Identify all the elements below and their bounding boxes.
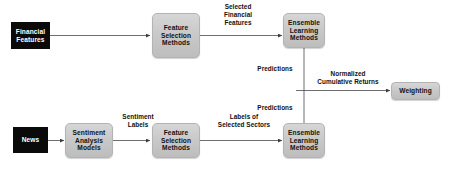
- edge-label-predictions-bottom-line-1: Predictions: [249, 104, 301, 112]
- node-news-label: News: [22, 136, 40, 144]
- node-feature-selection-methods-top[interactable]: Feature Selection Methods: [152, 13, 200, 58]
- node-feature-selection-top-line-3: Methods: [162, 39, 190, 47]
- edge-label-predictions-top-line-1: Predictions: [249, 65, 301, 73]
- node-ensemble-learning-methods-top[interactable]: Ensemble Learning Methods: [283, 13, 325, 48]
- edge-label-labels-of-selected-sectors-line-1: Labels of: [206, 113, 282, 121]
- node-weighting-label: Weighting: [399, 87, 432, 95]
- node-sentiment-analysis-line-2: Analysis: [75, 137, 103, 145]
- node-feature-selection-top-line-1: Feature: [164, 24, 189, 32]
- node-feature-selection-top-line-2: Selection: [161, 32, 191, 40]
- edge-label-labels-of-selected-sectors-line-2: Selected Sectors: [206, 121, 282, 129]
- edge-label-selected-financial-features: Selected Financial Features: [208, 3, 268, 26]
- node-news[interactable]: News: [13, 127, 48, 153]
- node-financial-features-line-1: Financial: [16, 28, 45, 36]
- edge-label-selected-financial-features-line-2: Financial: [208, 11, 268, 19]
- edge-label-normalized-cumulative-returns: Normalized Cumulative Returns: [310, 70, 386, 86]
- node-sentiment-analysis-line-1: Sentiment: [73, 129, 106, 137]
- node-ensemble-top-line-2: Learning: [290, 27, 319, 35]
- edge-label-predictions-top: Predictions: [249, 65, 301, 73]
- node-feature-selection-methods-bottom[interactable]: Feature Selection Methods: [152, 123, 200, 158]
- node-ensemble-bottom-line-1: Ensemble: [288, 129, 320, 137]
- node-ensemble-top-line-3: Methods: [290, 34, 318, 42]
- edge-label-normalized-cumulative-returns-line-1: Normalized: [310, 70, 386, 78]
- node-ensemble-top-line-1: Ensemble: [288, 19, 320, 27]
- node-financial-features[interactable]: Financial Features: [11, 22, 50, 49]
- node-weighting[interactable]: Weighting: [391, 82, 440, 100]
- edge-label-selected-financial-features-line-1: Selected: [208, 3, 268, 11]
- node-feature-selection-bottom-line-3: Methods: [162, 144, 190, 152]
- node-sentiment-analysis-models[interactable]: Sentiment Analysis Models: [65, 123, 113, 158]
- node-feature-selection-bottom-line-2: Selection: [161, 137, 191, 145]
- node-ensemble-learning-methods-bottom[interactable]: Ensemble Learning Methods: [283, 123, 325, 158]
- edge-label-normalized-cumulative-returns-line-2: Cumulative Returns: [310, 78, 386, 86]
- edge-label-labels-of-selected-sectors: Labels of Selected Sectors: [206, 113, 282, 129]
- edge-label-predictions-bottom: Predictions: [249, 104, 301, 112]
- node-financial-features-line-2: Features: [16, 36, 44, 44]
- edge-label-sentiment-labels-line-1: Sentiment: [114, 113, 162, 121]
- node-ensemble-bottom-line-3: Methods: [290, 144, 318, 152]
- edge-label-selected-financial-features-line-3: Features: [208, 19, 268, 27]
- node-sentiment-analysis-line-3: Models: [77, 144, 100, 152]
- node-ensemble-bottom-line-2: Learning: [290, 137, 319, 145]
- node-feature-selection-bottom-line-1: Feature: [164, 129, 189, 137]
- flowchart-diagram: Financial Features Feature Selection Met…: [0, 0, 450, 171]
